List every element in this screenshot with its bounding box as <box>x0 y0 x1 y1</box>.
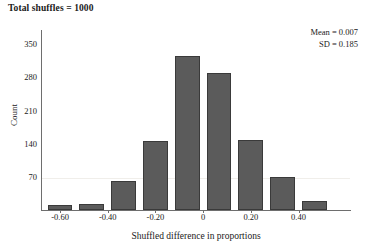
x-axis-ticks: -0.60-0.40-0.2000.200.40 <box>0 212 370 228</box>
x-tick-mark <box>108 210 109 213</box>
x-axis-line <box>41 210 351 211</box>
histogram-bar <box>207 73 232 210</box>
histogram-bar <box>302 201 327 210</box>
x-tick-label: -0.60 <box>51 212 69 222</box>
x-tick-mark <box>299 210 300 213</box>
x-axis-label: Shuffled difference in proportions <box>41 231 351 241</box>
x-tick-label: 0.40 <box>291 212 306 222</box>
histogram-bar <box>79 204 104 210</box>
x-tick-label: -0.20 <box>147 212 165 222</box>
histogram-bar <box>111 181 136 210</box>
x-tick-mark <box>60 210 61 213</box>
x-tick-mark <box>251 210 252 213</box>
histogram-bar <box>238 140 263 210</box>
x-tick-label: 0.20 <box>243 212 258 222</box>
x-tick-mark <box>203 210 204 213</box>
bars-container <box>0 0 370 210</box>
histogram-figure: Total shuffles = 1000 Mean = 0.007 SD = … <box>0 0 370 252</box>
x-tick-label: 0 <box>201 212 205 222</box>
histogram-bar <box>143 141 168 210</box>
x-tick-mark <box>155 210 156 213</box>
histogram-bar <box>270 177 295 210</box>
histogram-bar <box>175 56 200 210</box>
x-tick-label: -0.40 <box>99 212 117 222</box>
